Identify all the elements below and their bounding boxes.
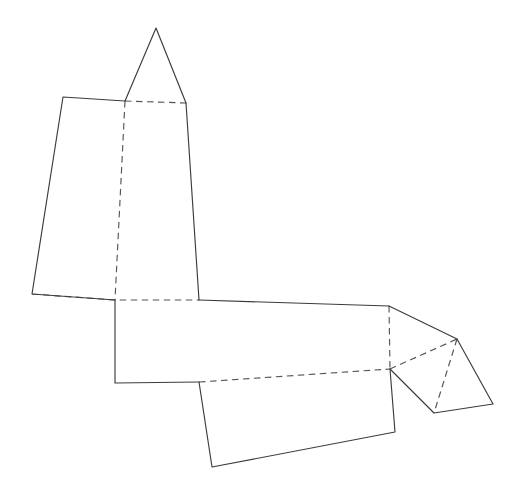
- net-diagram-svg: [0, 0, 525, 498]
- net-diagram-canvas: [0, 0, 525, 498]
- diagram-background: [0, 0, 525, 498]
